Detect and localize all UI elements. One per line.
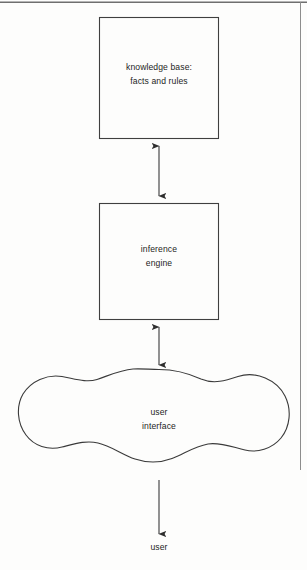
user-terminal-label-text: user <box>119 540 199 554</box>
knowledge-base-label-line2: facts and rules <box>99 74 219 88</box>
inference-engine-label: inference engine <box>99 242 219 270</box>
knowledge-base-label: knowledge base: facts and rules <box>99 60 219 88</box>
user-terminal-label: user <box>119 540 199 554</box>
user-interface-label-line2: interface <box>99 419 219 433</box>
inference-engine-label-line1: inference <box>99 242 219 256</box>
user-interface-label-line1: user <box>99 405 219 419</box>
knowledge-base-label-line1: knowledge base: <box>99 60 219 74</box>
diagram-page: knowledge base: facts and rules inferenc… <box>0 0 307 570</box>
user-interface-label: user interface <box>99 405 219 433</box>
inference-engine-label-line2: engine <box>99 256 219 270</box>
